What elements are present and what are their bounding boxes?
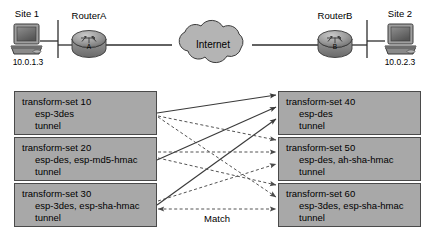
ts20-mode: tunnel (35, 166, 61, 177)
site1-ip-label: 10.0.1.3 (7, 57, 49, 68)
ts10-mode: tunnel (35, 120, 61, 131)
ts40-mode: tunnel (299, 120, 325, 131)
ts50-mode: tunnel (299, 166, 325, 177)
diagram-canvas: Site 1 10.0.1.3 RouterA A Internet Route… (0, 0, 427, 251)
ts60-transforms: esp-3des, esp-sha-hmac (299, 200, 404, 211)
arrow-ts10-to-ts60 (158, 117, 276, 197)
arrow-ts10-to-ts50 (158, 116, 276, 140)
transform-set-box-60: transform-set 60 esp-3des, esp-sha-hmac … (278, 183, 421, 227)
routerB-label: RouterB (312, 10, 358, 21)
cloud-label: Internet (186, 39, 240, 50)
ts40-title: transform-set 40 (286, 96, 355, 107)
transform-set-box-50: transform-set 50 esp-des, ah-sha-hmac tu… (278, 137, 421, 181)
site1-label: Site 1 (10, 8, 44, 19)
ts30-transforms: esp-3des, esp-sha-hmac (35, 200, 140, 211)
transform-set-box-10: transform-set 10 esp-3des tunnel (14, 91, 157, 135)
ts60-mode: tunnel (299, 212, 325, 223)
site2-ip-label: 10.0.2.3 (379, 57, 421, 68)
workstation-icon-site2 (385, 24, 416, 54)
match-arrows (157, 95, 276, 209)
workstation-icon-site1 (11, 24, 42, 54)
ts40-transforms: esp-des (299, 108, 333, 119)
ts10-title: transform-set 10 (22, 96, 91, 107)
ts30-mode: tunnel (35, 212, 61, 223)
ts30-title: transform-set 30 (22, 188, 91, 199)
match-label: Match (176, 213, 258, 224)
ts20-transforms: esp-des, esp-md5-hmac (35, 154, 137, 165)
routerB-letter: B (328, 41, 342, 52)
arrow-ts10-to-ts40 (157, 95, 276, 113)
transform-set-box-20: transform-set 20 esp-des, esp-md5-hmac t… (14, 137, 157, 181)
routerA-letter: A (82, 41, 96, 52)
ts50-transforms: esp-des, ah-sha-hmac (299, 154, 394, 165)
ts50-title: transform-set 50 (286, 142, 355, 153)
ts60-title: transform-set 60 (286, 188, 355, 199)
routerA-label: RouterA (66, 10, 112, 21)
site2-label: Site 2 (381, 8, 419, 19)
transform-set-box-30: transform-set 30 esp-3des, esp-sha-hmac … (14, 183, 157, 227)
ts20-title: transform-set 20 (22, 142, 91, 153)
transform-set-box-40: transform-set 40 esp-des tunnel (278, 91, 421, 135)
ts10-transforms: esp-3des (35, 108, 74, 119)
arrow-ts30-to-ts50 (158, 164, 276, 201)
